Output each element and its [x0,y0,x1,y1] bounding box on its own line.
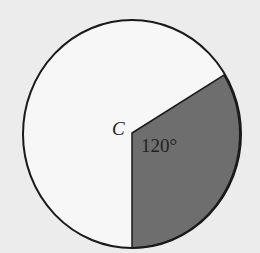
center-label: C [112,118,125,139]
circle-diagram: C 120° [0,0,260,253]
angle-label: 120° [141,135,177,156]
